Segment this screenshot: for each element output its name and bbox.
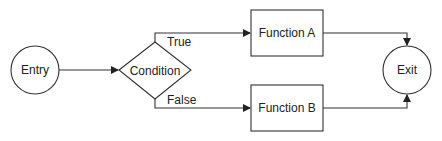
function-b-label: Function B (258, 102, 315, 114)
entry-label: Entry (21, 64, 49, 76)
function-a-label: Function A (259, 27, 316, 39)
diagram-canvas (0, 0, 442, 141)
condition-label: Condition (130, 65, 181, 77)
exit-label: Exit (397, 64, 417, 76)
edge-a-to-exit (323, 33, 407, 45)
flowchart-diagram: Entry Condition Function A Function B Ex… (0, 0, 442, 141)
edge-b-to-exit (323, 95, 407, 108)
false-edge-label: False (167, 94, 196, 106)
true-edge-label: True (167, 36, 191, 48)
